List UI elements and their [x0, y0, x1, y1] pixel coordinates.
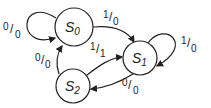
label-s0-s0: 0 / 0	[3, 21, 21, 40]
transition-s0-s1	[93, 27, 134, 42]
state-s0: S0	[55, 8, 93, 46]
svg-text:1: 1	[100, 48, 106, 59]
state-diagram: S0 S1 S2 0 / 0 1 / 0 1 / 0 1 / 1 0 / 0 0…	[0, 0, 211, 108]
svg-text:0: 0	[15, 29, 21, 40]
svg-text:/: /	[128, 78, 132, 92]
label-s2-s0: 0 / 0	[35, 52, 51, 70]
transition-s2-s0	[57, 46, 62, 74]
svg-text:0: 0	[45, 59, 51, 70]
label-s2-s1: 1 / 1	[90, 41, 106, 59]
transition-s0-s0	[27, 12, 56, 39]
svg-text:0: 0	[3, 21, 9, 32]
svg-text:0: 0	[133, 85, 139, 96]
svg-text:0: 0	[113, 16, 119, 27]
svg-text:/: /	[10, 22, 14, 36]
label-s1-s2: 0 / 0	[122, 77, 139, 96]
label-s1-s1: 1 / 0	[181, 35, 197, 54]
svg-text:0: 0	[191, 43, 197, 54]
label-s0-s1: 1 / 0	[103, 9, 119, 27]
transition-s2-s1	[87, 57, 122, 75]
state-s1: S1	[123, 41, 157, 75]
state-s2: S2	[56, 69, 90, 103]
